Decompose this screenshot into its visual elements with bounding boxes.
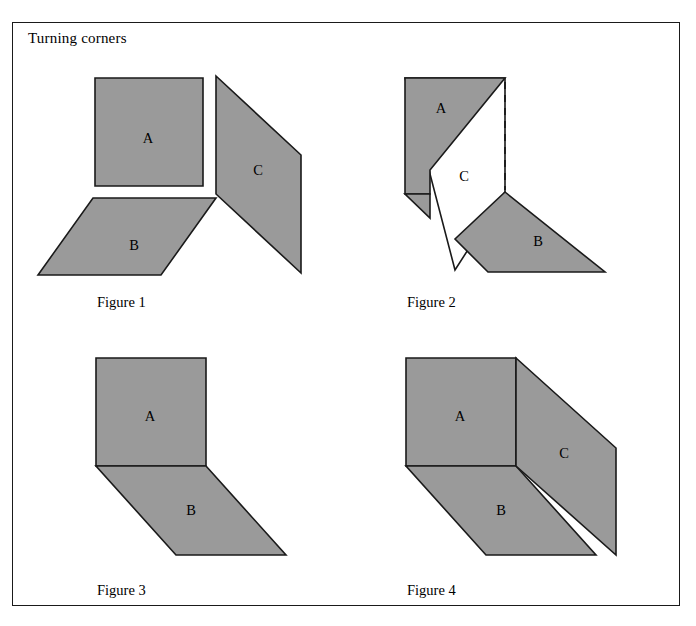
caption-figure-2: Figure 2 [407, 294, 456, 311]
diagram-page: Turning corners ABCCABABABC Figure 1 Fig… [0, 0, 696, 626]
caption-figure-1: Figure 1 [97, 294, 146, 311]
caption-figure-3: Figure 3 [97, 582, 146, 599]
page-title: Turning corners [28, 30, 127, 47]
caption-figure-4: Figure 4 [407, 582, 456, 599]
diagram-frame [12, 22, 680, 606]
